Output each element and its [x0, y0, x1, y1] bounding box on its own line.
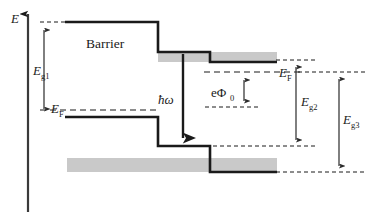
fermi-level-left-base: E: [50, 101, 59, 116]
fermi-level-right-base: E: [278, 65, 287, 80]
bandgap-3-label-sub: g3: [351, 120, 360, 130]
fermi-level-left-sub: F: [59, 109, 64, 119]
band-diagram-canvas: E E g1 E F Barrier ħω eΦ 0 E F E g2: [0, 0, 370, 223]
bandgap-1-label-base: E: [32, 63, 41, 78]
bandgap-2-label-base: E: [300, 94, 309, 109]
barrier-potential-sub: 0: [230, 93, 234, 103]
energy-axis-label: E: [10, 11, 19, 26]
barrier-label: Barrier: [86, 36, 125, 51]
photon-energy-label: ħω: [158, 92, 174, 107]
bandgap-2-label-sub: g2: [309, 102, 318, 112]
barrier-potential-base: eΦ: [211, 85, 227, 100]
band-diagram-figure: E E g1 E F Barrier ħω eΦ 0 E F E g2: [0, 0, 370, 223]
bandgap-1-label-sub: g1: [41, 71, 50, 81]
bandgap-3-label-base: E: [342, 112, 351, 127]
fermi-level-right-sub: F: [287, 73, 292, 83]
lower-shaded-band: [67, 158, 277, 172]
upper-shaded-band: [158, 52, 277, 62]
